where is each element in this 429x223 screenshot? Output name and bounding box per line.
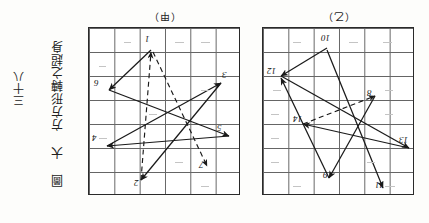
point-label-b-14: 14 bbox=[293, 114, 302, 123]
scanned-figure-page: 三十八 圖 大 方方形轉之超身 （甲） bbox=[0, 0, 429, 223]
vector-a-2 bbox=[109, 90, 229, 136]
vector-arrows-a bbox=[89, 28, 241, 196]
vector-a-5 bbox=[141, 83, 221, 180]
point-label-b-9: 9 bbox=[323, 170, 328, 179]
point-label-b-10: 10 bbox=[321, 33, 330, 42]
vector-b-1 bbox=[281, 48, 327, 76]
point-label-b-8: 8 bbox=[367, 88, 372, 97]
point-label-a-5: 5 bbox=[217, 123, 222, 132]
panel-b-title: （乙） bbox=[322, 10, 355, 25]
point-label-a-3: 3 bbox=[222, 70, 227, 79]
panel-a-title: （甲） bbox=[148, 10, 181, 25]
point-label-a-4: 4 bbox=[92, 133, 97, 142]
page-number-caption: 三十八 bbox=[14, 70, 25, 106]
vector-arrows-b bbox=[263, 28, 415, 196]
point-label-a-6: 6 bbox=[94, 78, 99, 87]
point-label-a-7: 7 bbox=[199, 160, 204, 169]
point-label-a-1: 1 bbox=[145, 34, 150, 43]
diagram-panel-a: 1 6 3 5 4 7 2 bbox=[88, 27, 240, 195]
point-label-a-2: 2 bbox=[134, 178, 139, 187]
point-label-b-11: 11 bbox=[375, 180, 383, 189]
vector-b-3 bbox=[303, 124, 409, 148]
vector-a-1 bbox=[109, 50, 151, 90]
vector-b-2 bbox=[281, 76, 409, 148]
vector-b-4-dashed bbox=[303, 96, 375, 124]
diagram-panel-b: 10 12 8 14 13 9 11 bbox=[262, 27, 414, 195]
vector-a-3 bbox=[107, 136, 229, 146]
vector-a-4 bbox=[107, 83, 221, 146]
vector-a-6-dashed bbox=[141, 52, 151, 180]
figure-caption: 圖 大 方方形轉之超身 bbox=[52, 40, 65, 187]
vector-b-5 bbox=[329, 96, 375, 178]
point-label-b-12: 12 bbox=[267, 66, 276, 75]
point-label-b-13: 13 bbox=[399, 135, 408, 144]
